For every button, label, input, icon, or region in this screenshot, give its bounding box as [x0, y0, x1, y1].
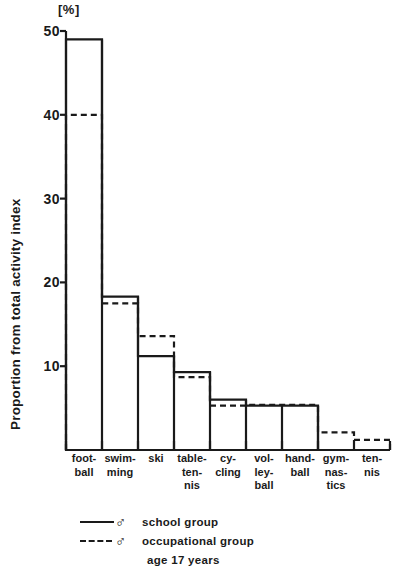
x-axis-category-labels: foot-ballswim-mingskitable-ten-niscy-cli… — [0, 452, 403, 502]
legend-label-school-group: school group — [142, 516, 218, 528]
legend-note-row: age 17 years — [80, 550, 380, 569]
legend-label-occupational-group: occupational group — [142, 535, 254, 547]
legend-dashed-line-icon — [80, 536, 114, 546]
series-outline-solid — [66, 39, 390, 450]
legend-note-age: age 17 years — [147, 554, 220, 566]
legend-entry-school-group: ♂ school group — [80, 512, 380, 531]
plot-area — [0, 0, 403, 470]
category-dividers — [66, 39, 390, 450]
male-symbol-icon: ♂ — [115, 514, 133, 529]
legend-solid-line-icon — [80, 517, 114, 527]
series-school-group — [66, 39, 390, 450]
x-label-tennis: ten-nis — [350, 452, 394, 479]
chart-container: [%] Proportion from total activity index… — [0, 0, 403, 580]
male-symbol-icon: ♂ — [115, 533, 133, 548]
chart-legend: ♂ school group ♂ occupational group age … — [80, 512, 380, 569]
axis-lines — [60, 31, 390, 450]
legend-entry-occupational-group: ♂ occupational group — [80, 531, 380, 550]
